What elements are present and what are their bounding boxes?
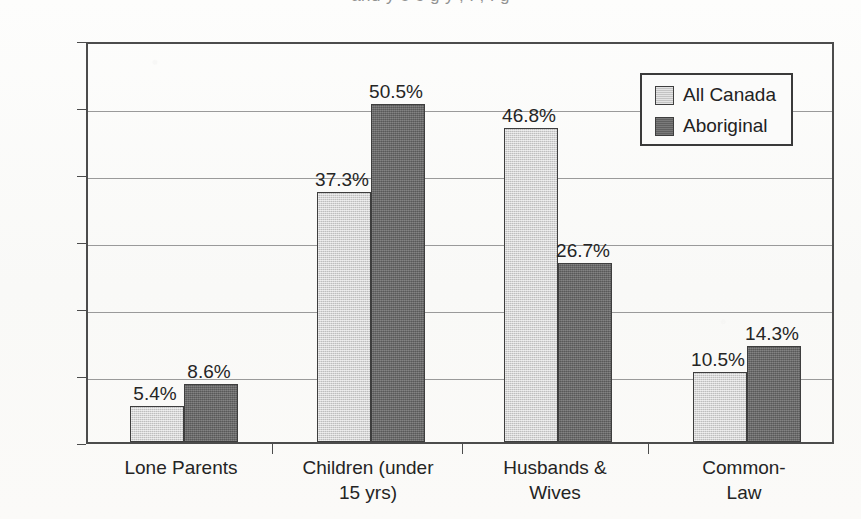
x-axis-category-label: Lone Parents (124, 455, 237, 480)
legend-label-all-canada: All Canada (683, 84, 776, 106)
legend-entry-all-canada: All Canada (655, 84, 776, 106)
bar-value-label: 50.5% (369, 81, 423, 103)
bar-aboriginal (371, 104, 425, 442)
bar-all-canada (130, 406, 184, 442)
gridline (88, 245, 832, 246)
bar-value-label: 5.4% (133, 383, 176, 405)
chart-legend: All Canada Aboriginal (640, 73, 793, 146)
x-axis-tick-mark (648, 444, 649, 454)
bar-value-label: 26.7% (556, 240, 610, 262)
x-axis-category-label: Husbands & Wives (503, 455, 607, 505)
legend-swatch-icon-aboriginal (655, 117, 674, 136)
bar-all-canada (504, 128, 558, 442)
bar-value-label: 8.6% (187, 361, 230, 383)
legend-swatch-icon-all-canada (655, 86, 674, 105)
y-axis-tick-mark (77, 109, 86, 110)
y-axis-tick-mark (77, 444, 86, 445)
gridline (88, 178, 832, 179)
y-axis-tick-mark (77, 42, 86, 43)
legend-label-aboriginal: Aboriginal (683, 115, 768, 137)
x-axis-tick-mark (272, 444, 273, 454)
x-axis-tick-mark (462, 444, 463, 454)
legend-entry-aboriginal: Aboriginal (655, 115, 768, 137)
y-axis-tick-mark (77, 243, 86, 244)
bar-aboriginal (558, 263, 612, 442)
bar-value-label: 46.8% (502, 105, 556, 127)
bar-aboriginal (747, 346, 801, 442)
bar-all-canada (317, 192, 371, 442)
bar-aboriginal (184, 384, 238, 442)
y-axis-tick-mark (77, 176, 86, 177)
x-axis-category-label: Children (under 15 yrs) (303, 455, 434, 505)
bar-value-label: 37.3% (315, 169, 369, 191)
bar-all-canada (693, 372, 747, 442)
clipped-caption-fragment: and y e o g y , . , . g (0, 0, 861, 6)
gridline (88, 312, 832, 313)
bar-value-label: 14.3% (745, 323, 799, 345)
bar-value-label: 10.5% (691, 349, 745, 371)
x-axis-category-label: Common-Law (686, 455, 803, 505)
y-axis-tick-mark (77, 377, 86, 378)
y-axis-tick-mark (77, 310, 86, 311)
chart-page: and y e o g y , . , . g 0%10%20%30%40%50… (0, 0, 861, 519)
